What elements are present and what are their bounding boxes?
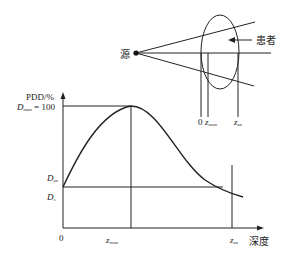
patient-arrow-icon: [228, 37, 235, 43]
source-label: 源: [120, 48, 130, 60]
x-origin-label: 0: [59, 233, 64, 243]
source-dot-icon: [133, 50, 138, 55]
dmax-label: Dmax = 100: [16, 102, 55, 112]
depth-marker-zex: zex: [233, 117, 243, 127]
pdd-chart: [63, 97, 258, 228]
dex-label: Dex: [46, 173, 59, 183]
beam-geometry: [136, 15, 271, 117]
x-axis-arrow-icon: [257, 226, 264, 231]
x-zmax-label: zmax: [105, 235, 119, 245]
depth-marker-zero: 0: [198, 117, 203, 127]
pdd-diagram: 源 患者 0 zmax zex PDD/% Dmax = 100 Dex Ds …: [0, 0, 291, 262]
y-axis-arrow-icon: [61, 92, 66, 99]
depth-marker-zmax: zmax: [204, 117, 218, 127]
patient-label: 患者: [256, 35, 276, 46]
patient-ellipse: [201, 15, 239, 89]
x-axis-label: 深度: [249, 235, 269, 247]
ds-label: Ds: [46, 192, 56, 202]
x-zex-label: zex: [229, 235, 239, 245]
y-axis-label: PDD/%: [26, 92, 55, 102]
pdd-curve: [63, 106, 243, 197]
